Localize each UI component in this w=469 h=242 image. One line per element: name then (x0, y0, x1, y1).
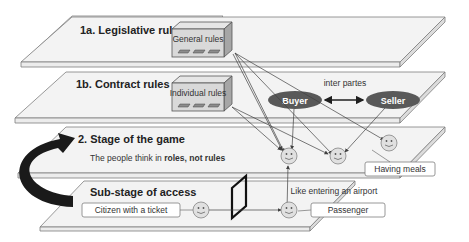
face-game-1 (281, 148, 297, 164)
individual-rules-label: Individual rules (170, 88, 227, 98)
face-passenger (281, 202, 297, 218)
individual-rules-box: Individual rules (170, 76, 232, 111)
buyer-label: Buyer (282, 96, 308, 106)
meals-label: Having meals (374, 164, 426, 174)
airport-caption: Like entering an airport (291, 186, 379, 196)
general-rules-box: General rules (172, 22, 232, 57)
title-game: 2. Stage of the game (78, 133, 185, 145)
general-rules-label: General rules (172, 34, 223, 44)
title-legislative: 1a. Legislative rules (80, 24, 185, 36)
title-contract: 1b. Contract rules (76, 78, 170, 90)
face-meals (381, 135, 397, 151)
citizen-label: Citizen with a ticket (95, 205, 168, 215)
face-citizen (193, 202, 209, 218)
face-game-2 (330, 148, 346, 164)
title-access: Sub-stage of access (90, 186, 196, 198)
diagram-main: 1a. Legislative rules General rules 1b. … (0, 0, 469, 242)
passenger-label: Passenger (328, 205, 369, 215)
seller-label: Seller (381, 96, 406, 106)
game-caption: The people think in roles, not rules (90, 153, 225, 163)
inter-partes-label: inter partes (324, 78, 367, 88)
